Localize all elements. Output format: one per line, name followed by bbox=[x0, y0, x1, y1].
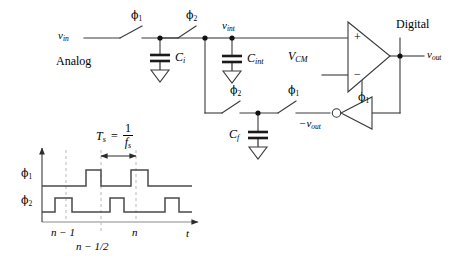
label-vin: vin bbox=[58, 30, 69, 42]
timing-axis-label-t: t bbox=[186, 228, 189, 239]
label-switch-phi2-transfer[interactable]: ϕ2 bbox=[186, 10, 197, 22]
label-switch-phi1-input[interactable]: ϕ1 bbox=[131, 10, 142, 22]
timing-tick-n: n bbox=[132, 227, 138, 238]
label-switch-phi1-cf[interactable]: ϕ1 bbox=[288, 85, 299, 97]
capacitor-plates bbox=[150, 55, 268, 147]
label-vint: vint bbox=[222, 20, 235, 32]
label-minus-vout: −vout bbox=[299, 118, 321, 130]
timing-label-phi2: ϕ2 bbox=[21, 195, 32, 207]
label-capacitor-ci: Ci bbox=[175, 51, 185, 65]
label-capacitor-cf: Cf bbox=[229, 128, 239, 142]
timing-label-phi1: ϕ1 bbox=[21, 168, 32, 180]
label-vcm: VCM bbox=[288, 50, 308, 64]
label-switch-phi2-cf[interactable]: ϕ2 bbox=[230, 85, 241, 97]
label-sampling-period: Ts = 1 fs bbox=[96, 122, 133, 150]
label-capacitor-cint: Cint bbox=[247, 52, 264, 66]
timing-gridlines bbox=[66, 150, 136, 232]
label-comparator-clock-phi1: ϕ1 bbox=[358, 92, 369, 104]
label-vout: vout bbox=[427, 49, 441, 61]
waveform-phi1 bbox=[42, 170, 192, 186]
waveform-phi2 bbox=[42, 198, 192, 212]
label-digital-domain: Digital bbox=[396, 18, 429, 30]
ground-symbols bbox=[151, 70, 267, 159]
label-analog-domain: Analog bbox=[56, 55, 91, 67]
timing-axes bbox=[42, 148, 198, 222]
figure-canvas: vin Analog Digital ϕ1 ϕ2 vint Ci Cint VC… bbox=[0, 0, 462, 262]
comparator-plus-terminal: + bbox=[354, 31, 361, 43]
timing-tick-n-minus-1: n − 1 bbox=[51, 227, 75, 238]
comparator-minus-terminal: − bbox=[354, 68, 361, 80]
timing-tick-n-minus-half: n − 1/2 bbox=[76, 241, 108, 252]
